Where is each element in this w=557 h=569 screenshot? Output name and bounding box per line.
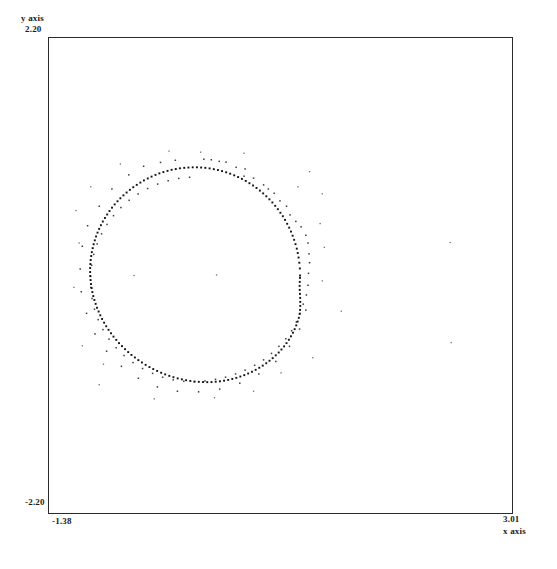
data-point	[288, 227, 290, 229]
data-point	[277, 208, 279, 210]
data-point	[305, 235, 307, 237]
data-point	[269, 360, 271, 362]
data-point	[272, 357, 274, 359]
data-point	[94, 333, 96, 335]
data-point	[143, 165, 145, 167]
data-point	[103, 322, 105, 324]
data-point	[265, 362, 267, 364]
data-point	[312, 357, 313, 358]
data-point	[192, 166, 194, 168]
data-point	[129, 189, 131, 191]
data-point	[119, 197, 121, 199]
data-point	[90, 259, 92, 261]
data-point	[307, 284, 309, 286]
data-point	[152, 373, 154, 375]
data-point	[209, 167, 211, 169]
data-point	[204, 380, 206, 382]
data-point	[298, 257, 300, 259]
data-point	[299, 301, 301, 303]
data-point	[271, 353, 273, 355]
data-point	[128, 200, 130, 202]
data-point	[121, 366, 123, 368]
data-point	[200, 152, 201, 153]
data-point	[299, 281, 301, 283]
data-point	[253, 391, 254, 392]
data-point	[300, 226, 302, 228]
data-point	[299, 297, 301, 299]
data-point	[113, 336, 115, 338]
data-point	[299, 275, 301, 277]
data-point	[299, 328, 301, 330]
data-point	[114, 203, 116, 205]
scatter-plot-figure: y axis 2.20 -2.20 -1.38 3.01 x axis	[0, 0, 557, 569]
data-point	[177, 377, 179, 379]
data-point	[215, 381, 217, 383]
data-point	[286, 206, 288, 208]
data-point	[132, 362, 134, 364]
data-point	[279, 212, 281, 214]
data-point	[97, 232, 99, 234]
data-point	[171, 169, 173, 171]
data-point	[145, 364, 147, 366]
data-point	[279, 200, 281, 202]
data-point	[194, 381, 196, 383]
data-point	[120, 163, 121, 164]
data-point	[307, 242, 309, 244]
data-point	[168, 375, 170, 377]
data-point	[289, 346, 291, 348]
data-point	[258, 367, 260, 369]
data-point	[103, 364, 104, 365]
data-point	[142, 368, 144, 370]
data-point	[168, 150, 169, 151]
data-point	[131, 354, 133, 356]
data-point	[93, 254, 95, 256]
data-point	[99, 384, 100, 385]
data-point	[324, 247, 325, 248]
data-point	[239, 382, 241, 384]
data-point	[262, 365, 264, 367]
data-point	[255, 369, 257, 371]
data-point	[275, 361, 277, 363]
data-point	[79, 268, 81, 270]
data-point	[178, 178, 180, 180]
data-point	[196, 166, 198, 168]
data-point	[322, 280, 323, 281]
data-point	[175, 168, 177, 170]
data-point	[154, 398, 155, 399]
data-point	[290, 335, 292, 337]
data-point	[181, 378, 183, 380]
data-point	[239, 376, 241, 378]
data-point	[100, 224, 102, 226]
data-point	[97, 319, 99, 321]
data-point	[251, 371, 253, 373]
data-point	[259, 190, 261, 192]
data-point	[449, 242, 450, 243]
data-point	[102, 221, 104, 223]
data-point	[105, 325, 107, 327]
data-point	[293, 239, 295, 241]
data-point	[89, 271, 91, 273]
data-point	[164, 373, 166, 375]
data-point	[158, 172, 160, 174]
data-point	[225, 161, 227, 163]
data-point	[90, 255, 92, 257]
plot-frame-border	[49, 38, 513, 514]
data-point	[225, 376, 227, 378]
data-point	[211, 381, 213, 383]
data-point	[244, 369, 246, 371]
data-point	[90, 287, 92, 289]
data-point	[162, 376, 164, 378]
data-point	[233, 174, 235, 176]
data-point	[319, 223, 320, 224]
data-point	[248, 182, 250, 184]
data-point	[136, 184, 138, 186]
data-point	[229, 173, 231, 175]
data-point	[141, 362, 143, 364]
data-point	[81, 291, 83, 293]
data-point	[268, 198, 270, 200]
data-point	[291, 330, 293, 332]
data-point	[256, 187, 258, 189]
data-point	[295, 324, 297, 326]
data-point	[187, 167, 189, 169]
data-point	[121, 345, 123, 347]
